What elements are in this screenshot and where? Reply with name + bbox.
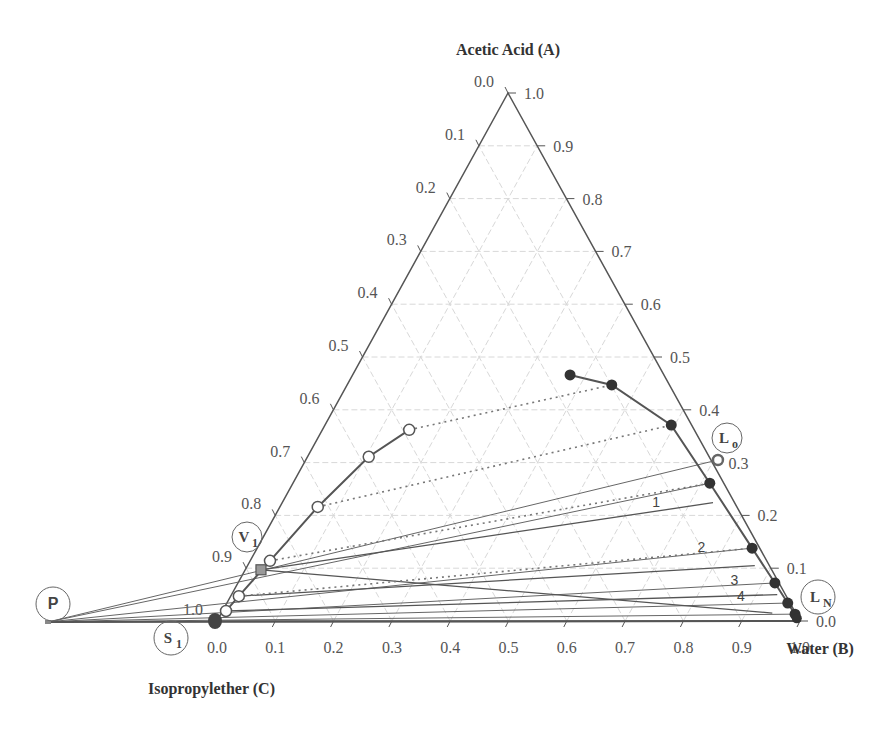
feed-point-L0 <box>713 455 723 465</box>
left-tick <box>272 509 275 515</box>
right-tick-label: 0.7 <box>612 243 632 260</box>
left-tick-label: 0.5 <box>329 337 349 354</box>
operating-line <box>48 583 775 622</box>
left-tick-label: 0.4 <box>358 284 378 301</box>
right-tick-label: 0.1 <box>787 560 807 577</box>
right-tick-label: 0.4 <box>699 402 719 419</box>
extract-curve <box>226 430 409 611</box>
left-tick-label: 1.0 <box>183 601 203 618</box>
stage-number-label: 2 <box>698 539 706 555</box>
grid-line-b <box>392 251 596 621</box>
bottom-tick-label: 0.8 <box>673 639 693 656</box>
left-tick-label: 0.8 <box>241 495 261 512</box>
left-tick <box>330 404 333 410</box>
extract-point <box>312 501 323 512</box>
bottom-tick-label: 0.6 <box>557 639 577 656</box>
right-tick-label: 0.8 <box>582 191 602 208</box>
left-tick <box>418 245 421 251</box>
solvent-point-S1 <box>208 613 222 629</box>
left-tick <box>476 140 479 146</box>
label-S1-subscript: 1 <box>176 637 182 651</box>
raffinate-point <box>565 369 576 380</box>
data-points <box>45 369 802 629</box>
right-tick-label: 0.3 <box>728 455 748 472</box>
extract-point <box>404 424 415 435</box>
label-L0-text: L <box>719 430 729 446</box>
bottom-tick-label: 0.1 <box>265 639 285 656</box>
raffinate-point <box>704 478 715 489</box>
bottom-tick-label: 0.4 <box>440 639 460 656</box>
stage-number-label: 3 <box>730 572 738 588</box>
label-S1-text: S <box>164 630 172 646</box>
label-LN-subscript: N <box>823 596 832 610</box>
left-tick-label: 0.9 <box>212 548 232 565</box>
raffinate-point <box>606 379 617 390</box>
grid-lines <box>246 146 771 621</box>
stage-tie-line <box>239 566 755 597</box>
raffinate-point <box>747 543 758 554</box>
operating-lines <box>48 460 800 622</box>
grid-line-c <box>421 251 625 621</box>
bottom-tick-label: 0.3 <box>382 639 402 656</box>
operating-line-base <box>48 621 800 622</box>
right-tick-label: 0.5 <box>670 349 690 366</box>
operating-line <box>48 548 752 622</box>
left-tick-label: 0.2 <box>416 179 436 196</box>
raffinate-point <box>769 577 780 588</box>
right-axis-title: Water (B) <box>786 640 854 658</box>
label-V1-text: V <box>239 529 250 545</box>
label-L0-subscript: o <box>732 437 738 451</box>
bottom-tick-label: 0.7 <box>615 639 635 656</box>
label-P-text: P <box>48 595 59 612</box>
extract-point-V1 <box>256 565 266 575</box>
ternary-diagram: 0.01.00.00.10.90.10.20.80.20.30.70.30.40… <box>0 0 886 733</box>
apex-axis-title: Acetic Acid (A) <box>456 41 560 59</box>
right-tick-label: 0.9 <box>553 138 573 155</box>
raffinate-point <box>666 420 677 431</box>
raffinate-point-LN <box>792 613 802 623</box>
right-tick-label: 0.0 <box>816 613 836 630</box>
left-tick-label: 0.0 <box>474 73 494 90</box>
label-V1-subscript: 1 <box>252 536 258 550</box>
left-tick <box>447 193 450 199</box>
right-tick-label: 0.2 <box>758 507 778 524</box>
left-tick <box>360 351 363 357</box>
left-tick-label: 0.3 <box>387 231 407 248</box>
left-tick <box>389 298 392 304</box>
bottom-tick-label: 0.9 <box>732 639 752 656</box>
stage-number-label: 1 <box>652 494 660 510</box>
grid-line-b <box>509 357 655 621</box>
grid-line-b <box>275 146 537 621</box>
stage-number-label: 4 <box>737 588 745 604</box>
left-axis-title: Isopropylether (C) <box>148 680 275 698</box>
left-tick <box>301 457 304 463</box>
right-tick-label: 1.0 <box>524 85 544 102</box>
right-tick-label: 0.6 <box>641 296 661 313</box>
tie-line-dotted <box>318 425 672 507</box>
bottom-tick-label: 0.5 <box>499 639 519 656</box>
bottom-tick-label: 0.0 <box>207 639 227 656</box>
left-tick-label: 0.1 <box>445 126 465 143</box>
left-tick <box>505 87 508 93</box>
raffinate-point <box>782 598 793 609</box>
extract-point <box>363 451 374 462</box>
bottom-tick-label: 0.2 <box>324 639 344 656</box>
extract-point <box>233 591 244 602</box>
label-LN-text: L <box>810 589 820 605</box>
left-tick-label: 0.7 <box>270 443 290 460</box>
extract-point <box>221 605 232 616</box>
left-tick <box>243 562 246 568</box>
left-tick-label: 0.6 <box>299 390 319 407</box>
